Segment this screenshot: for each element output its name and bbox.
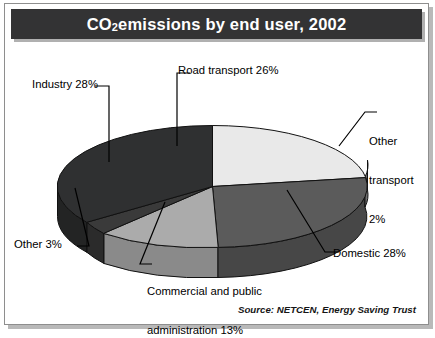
slice-label-road-transport: Road transport 26%: [178, 64, 278, 77]
slice-label-domestic: Domestic 28%: [333, 247, 406, 260]
title-rest: emissions by end user, 2002: [118, 15, 346, 34]
slice-label-other-transport: Other transport 2%: [369, 109, 414, 252]
slice-label-other: Other 3%: [14, 238, 62, 251]
slice-label-other-transport-line1: Other: [369, 135, 414, 148]
title-subscript: 2: [112, 21, 118, 33]
slice-label-commercial-line1: Commercial and public: [147, 285, 262, 298]
title-main: CO: [87, 15, 112, 34]
slice-label-industry: Industry 28%: [32, 78, 98, 91]
source-note: Source: NETCEN, Energy Saving Trust: [238, 304, 416, 315]
slice-label-other-transport-line3: 2%: [369, 213, 414, 226]
slice-label-other-transport-line2: transport: [369, 174, 414, 187]
page-title: CO2 emissions by end user, 2002: [11, 9, 422, 39]
title-bar: CO2 emissions by end user, 2002: [11, 9, 422, 39]
slice-label-commercial: Commercial and public administration 13%: [147, 259, 262, 338]
slice-label-commercial-line2: administration 13%: [147, 324, 262, 337]
